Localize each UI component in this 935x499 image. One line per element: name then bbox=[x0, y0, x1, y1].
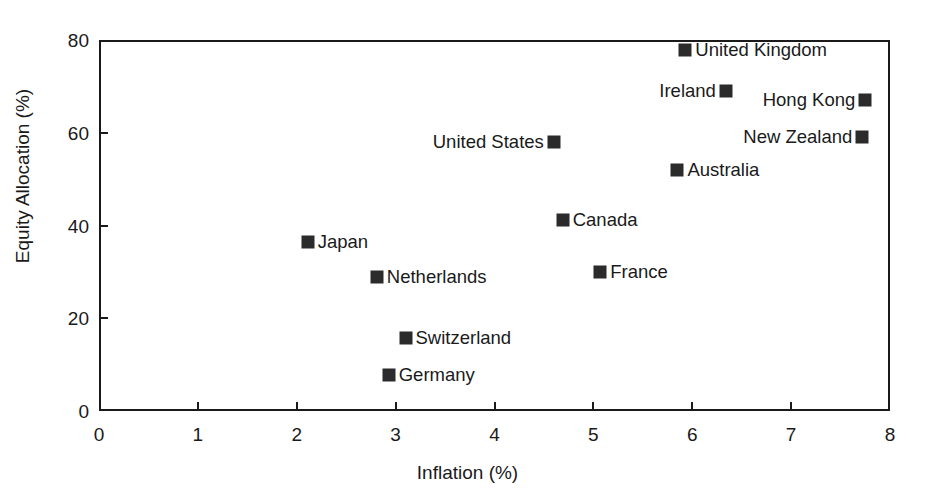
x-tick-label: 5 bbox=[588, 425, 599, 444]
y-tick-label: 60 bbox=[37, 123, 89, 142]
data-point-marker bbox=[301, 235, 314, 248]
data-point-marker bbox=[671, 163, 684, 176]
data-point-marker bbox=[679, 44, 692, 57]
y-tick-mark bbox=[100, 225, 108, 227]
x-tick-mark bbox=[494, 402, 496, 410]
x-tick-mark bbox=[691, 402, 693, 410]
data-point-label: Canada bbox=[573, 211, 638, 230]
data-point-label: Japan bbox=[318, 232, 368, 251]
data-point-label: Australia bbox=[687, 161, 759, 180]
data-point-label: Ireland bbox=[659, 82, 716, 101]
data-point-marker bbox=[556, 213, 569, 226]
y-axis-label: Equity Allocation (%) bbox=[12, 46, 34, 306]
y-tick-mark bbox=[100, 132, 108, 134]
y-tick-label: 80 bbox=[37, 31, 89, 50]
scatter-chart-figure: Inflation (%) Equity Allocation (%) 0123… bbox=[0, 0, 935, 499]
x-tick-mark bbox=[395, 402, 397, 410]
x-tick-label: 2 bbox=[291, 425, 302, 444]
data-point-marker bbox=[382, 369, 395, 382]
x-tick-label: 4 bbox=[489, 425, 500, 444]
data-point-marker bbox=[859, 94, 872, 107]
data-point-label: Switzerland bbox=[416, 329, 512, 348]
x-tick-label: 0 bbox=[94, 425, 105, 444]
data-point-marker bbox=[547, 136, 560, 149]
y-tick-label: 20 bbox=[37, 309, 89, 328]
x-tick-mark bbox=[197, 402, 199, 410]
data-point-label: New Zealand bbox=[743, 128, 852, 147]
data-point-marker bbox=[594, 265, 607, 278]
data-point-marker bbox=[719, 85, 732, 98]
x-tick-label: 6 bbox=[687, 425, 698, 444]
x-tick-mark bbox=[790, 402, 792, 410]
x-tick-label: 7 bbox=[786, 425, 797, 444]
data-point-marker bbox=[370, 270, 383, 283]
x-tick-label: 1 bbox=[193, 425, 204, 444]
data-point-label: United States bbox=[433, 133, 544, 152]
x-tick-label: 3 bbox=[390, 425, 401, 444]
data-point-label: Netherlands bbox=[387, 267, 487, 286]
data-point-label: Hong Kong bbox=[763, 91, 856, 110]
data-point-label: France bbox=[610, 263, 668, 282]
x-tick-label: 8 bbox=[885, 425, 896, 444]
data-point-label: Germany bbox=[399, 366, 475, 385]
y-tick-label: 0 bbox=[37, 402, 89, 421]
y-tick-label: 40 bbox=[37, 216, 89, 235]
data-point-marker bbox=[856, 131, 869, 144]
x-tick-mark bbox=[296, 402, 298, 410]
x-tick-mark bbox=[592, 402, 594, 410]
data-point-label: United Kingdom bbox=[695, 41, 827, 60]
data-point-marker bbox=[399, 332, 412, 345]
x-axis-label: Inflation (%) bbox=[0, 462, 935, 484]
y-tick-mark bbox=[100, 317, 108, 319]
